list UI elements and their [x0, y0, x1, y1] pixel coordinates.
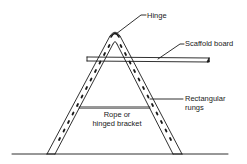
right-ladder-leg [117, 36, 182, 154]
rectangular-rungs-label: Rectangular rungs [185, 94, 225, 112]
hinge-label: Hinge [147, 11, 167, 20]
trestle-ladder-diagram [0, 0, 247, 164]
left-ladder-leg [47, 36, 113, 154]
rungs-label-line1: Rectangular [185, 94, 225, 103]
rope-label-line2: hinged bracket [86, 119, 148, 128]
rope-label-line1: Rope or [86, 110, 148, 119]
scaffold-board-leader-line [158, 44, 184, 59]
hinge-leader-line [116, 15, 146, 34]
scaffold-board-label: Scaffold board [185, 39, 233, 48]
hinge [110, 32, 120, 44]
rungs-label-line2: rungs [185, 103, 225, 112]
rope-bracket-label: Rope or hinged bracket [86, 110, 148, 128]
